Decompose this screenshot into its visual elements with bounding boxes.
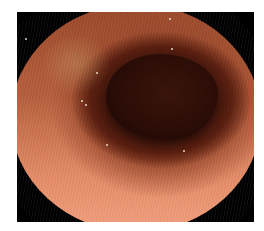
light-reflection: [171, 48, 173, 50]
mucosa-texture: [17, 12, 254, 222]
light-reflection: [106, 144, 108, 146]
light-reflection: [85, 104, 87, 106]
endoscopy-image-frame: [17, 12, 254, 222]
light-reflection: [169, 18, 171, 20]
light-reflection: [183, 150, 185, 152]
light-reflection: [81, 100, 83, 102]
light-reflection: [96, 72, 98, 74]
endoscopy-field-of-view: [17, 12, 254, 222]
light-reflection: [25, 38, 27, 40]
